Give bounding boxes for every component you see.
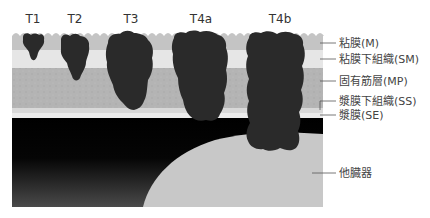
stage-label-t3: T3	[123, 12, 139, 26]
layer-label-other: 他臓器	[339, 167, 372, 180]
stage-labels: T1 T2 T3 T4a T4b	[25, 12, 292, 26]
layer-label-ss: 漿膜下組織(SS)	[339, 94, 417, 108]
layer-label-se: 漿膜(SE)	[339, 108, 384, 122]
tumor-t4b	[246, 31, 305, 151]
layer-label-mp: 固有筋層(MP)	[339, 74, 408, 88]
stage-label-t4a: T4a	[189, 12, 212, 26]
stage-label-t2: T2	[67, 12, 83, 26]
layer-label-m: 粘膜(M)	[339, 36, 379, 50]
layer-label-sm: 粘膜下組織(SM)	[339, 52, 419, 66]
tnm-depth-diagram: T1 T2 T3 T4a T4b 粘膜(M) 粘膜下組織(SM) 固有筋層(MP…	[0, 0, 430, 218]
stage-label-t1: T1	[25, 12, 41, 26]
stage-label-t4b: T4b	[268, 12, 292, 26]
